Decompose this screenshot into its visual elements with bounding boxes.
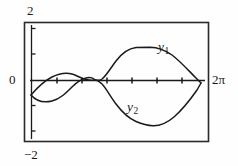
y-axis-zero-label: 0 (9, 73, 16, 86)
y-axis-min-label: −2 (24, 148, 38, 161)
curve-label-y1-subscript: 1 (165, 46, 170, 56)
y-axis-max-label: 2 (27, 4, 34, 17)
curve-label-y1-base: y (158, 39, 164, 54)
curve-label-y2-subscript: 2 (134, 106, 139, 116)
curve-label-y2-base: y (127, 99, 133, 114)
x-axis-max-label: 2π (212, 73, 225, 86)
curve-label-y2: y2 (127, 100, 138, 114)
plot-frame (25, 23, 209, 142)
curve-label-y1: y1 (158, 40, 169, 54)
plot-svg (0, 0, 238, 166)
figure-container: 2 −2 0 2π y1 y2 (0, 0, 238, 166)
